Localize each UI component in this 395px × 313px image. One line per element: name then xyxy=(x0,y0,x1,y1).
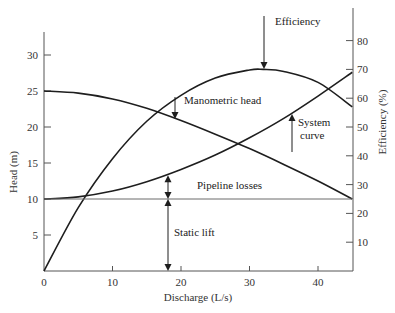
label-system-curve-1: System xyxy=(298,116,331,128)
y2-tick-label: 30 xyxy=(357,179,369,191)
label-pipeline-losses: Pipeline losses xyxy=(197,179,262,191)
axes: 010203040510152025301020304050607080 xyxy=(27,8,369,288)
y-tick-label: 15 xyxy=(27,157,39,169)
y2-axis-title: Efficiency (%) xyxy=(376,89,389,154)
x-tick-label: 30 xyxy=(244,276,256,288)
y-tick-label: 10 xyxy=(27,193,39,205)
x-axis-title: Discharge (L/s) xyxy=(164,291,233,304)
arrowhead-icon xyxy=(165,199,172,206)
y2-tick-label: 60 xyxy=(357,92,369,104)
label-system-curve-2: curve xyxy=(300,129,325,141)
arrowhead-icon xyxy=(165,175,172,182)
label-static-lift: Static lift xyxy=(174,226,215,238)
y2-tick-label: 70 xyxy=(357,63,369,75)
x-tick-label: 40 xyxy=(313,276,325,288)
y2-tick-label: 10 xyxy=(357,236,369,248)
y2-tick-label: 20 xyxy=(357,207,369,219)
x-tick-label: 10 xyxy=(107,276,119,288)
x-tick-label: 20 xyxy=(176,276,188,288)
y2-tick-label: 50 xyxy=(357,121,369,133)
y2-tick-label: 40 xyxy=(357,150,369,162)
arrowhead-icon xyxy=(165,192,172,199)
y-tick-label: 5 xyxy=(33,229,39,241)
label-efficiency: Efficiency xyxy=(275,15,321,27)
pump-characteristic-chart: 010203040510152025301020304050607080 Dis… xyxy=(0,0,395,313)
y-tick-label: 25 xyxy=(27,85,39,97)
y-tick-label: 30 xyxy=(27,49,39,61)
x-tick-label: 0 xyxy=(41,276,47,288)
arrowhead-icon xyxy=(165,264,172,271)
y2-tick-label: 80 xyxy=(357,35,369,47)
y-axis-title: Head (m) xyxy=(7,151,20,193)
arrowhead-icon xyxy=(261,62,268,69)
label-manometric-head: Manometric head xyxy=(184,94,262,106)
y-tick-label: 20 xyxy=(27,121,39,133)
